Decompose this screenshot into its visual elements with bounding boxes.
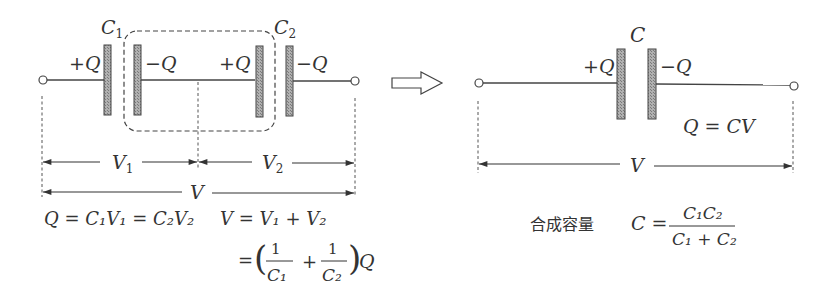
terminal-right xyxy=(790,82,798,90)
svg-text:C₂: C₂ xyxy=(322,265,342,285)
svg-text:C₁: C₁ xyxy=(267,265,287,285)
capacitor-plate-positive xyxy=(617,49,625,119)
right-circuit: C +Q −Q Q = CV V 合成容量 C = C₁C₂ C₁ + C₂ xyxy=(475,23,798,249)
series-capacitor-diagram: C1 C2 +Q −Q +Q −Q V1 V2 V Q = C₁V₁ = C₂V… xyxy=(0,0,835,301)
transform-arrow-icon xyxy=(392,72,442,94)
formula-denominator: C₁ + C₂ xyxy=(672,229,737,249)
v2-label: V2 xyxy=(262,151,283,176)
svg-text:1: 1 xyxy=(271,240,281,258)
charge-label: +Q xyxy=(583,55,615,77)
capacitor-label: C xyxy=(630,23,645,47)
capacitor2-plate-negative xyxy=(286,46,293,116)
relation-equation: Q = CV xyxy=(683,115,757,137)
svg-text:1: 1 xyxy=(328,240,338,258)
v1-label: V1 xyxy=(112,151,133,176)
combined-capacitance-label: 合成容量 xyxy=(530,215,594,234)
v-total-label: V xyxy=(190,181,206,203)
capacitor2-plate-positive xyxy=(256,46,263,117)
svg-text:(: ( xyxy=(254,238,267,278)
capacitor1-plate-negative xyxy=(134,45,141,115)
charge-label: −Q xyxy=(296,52,328,74)
terminal-left xyxy=(39,76,47,84)
c2-label: C2 xyxy=(274,16,296,41)
svg-text:+: + xyxy=(302,251,317,272)
charge-equation: Q = C₁V₁ = C₂V₂ xyxy=(44,208,194,229)
charge-label: +Q xyxy=(69,52,101,74)
voltage-sum-equation: V = V₁ + V₂ xyxy=(220,208,326,229)
formula-numerator: C₁C₂ xyxy=(683,203,723,223)
left-circuit: C1 C2 +Q −Q +Q −Q V1 V2 V Q = C₁V₁ = C₂V… xyxy=(39,16,375,285)
c1-label: C1 xyxy=(101,16,123,41)
charge-label: −Q xyxy=(660,55,692,77)
voltage-expansion-equation: = ( 1 C₁ + 1 C₂ ) Q xyxy=(238,238,375,285)
charge-label: −Q xyxy=(145,52,177,74)
terminal-right xyxy=(351,77,359,85)
wire xyxy=(656,84,790,85)
capacitor-plate-negative xyxy=(648,49,656,119)
capacitor1-plate-positive xyxy=(104,45,111,115)
charge-label: +Q xyxy=(219,52,251,74)
svg-text:=: = xyxy=(238,250,253,271)
terminal-left xyxy=(475,79,483,87)
v-label: V xyxy=(630,154,646,176)
formula-lhs: C = xyxy=(631,212,668,234)
isolated-conductor-box xyxy=(124,31,275,131)
svg-text:Q: Q xyxy=(359,250,375,272)
